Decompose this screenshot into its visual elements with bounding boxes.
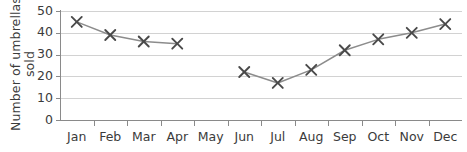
data-point-marker <box>340 45 350 55</box>
series-line-segment <box>244 24 445 83</box>
x-axis-tick-label: Jan <box>66 129 86 144</box>
x-axis-tick-label: Apr <box>166 129 188 144</box>
x-axis-tick-labels: JanFebMarAprMayJunJulAugSepOctNovDec <box>66 129 457 144</box>
y-axis-tick-label: 10 <box>37 90 53 105</box>
x-axis-tick-label: Mar <box>132 129 156 144</box>
axis-lines <box>60 10 462 121</box>
x-axis-tick-label: Feb <box>99 129 121 144</box>
x-axis-tick-label: Jul <box>269 129 285 144</box>
y-axis-tick-label: 20 <box>37 68 53 83</box>
x-axis-tick-label: Oct <box>367 129 389 144</box>
x-axis-tick-label: Jun <box>233 129 254 144</box>
data-point-marker <box>72 17 82 27</box>
x-axis-tick-marks <box>95 121 430 126</box>
data-point-marker <box>306 65 316 75</box>
x-axis-tick-label: Dec <box>433 129 457 144</box>
x-axis-tick-label: Aug <box>299 129 323 144</box>
y-axis-tick-label: 30 <box>37 46 53 61</box>
umbrellas-sold-line-chart: Number of umbrellas sold 01020304050 Jan… <box>0 0 467 152</box>
plot-area: 01020304050 JanFebMarAprMayJunJulAugSepO… <box>0 0 467 152</box>
gridlines <box>56 12 462 121</box>
x-axis-tick-label: Nov <box>400 129 425 144</box>
y-axis-tick-label: 50 <box>37 3 53 18</box>
x-axis-tick-label: Sep <box>333 129 357 144</box>
data-point-marker <box>440 19 450 29</box>
y-axis-tick-labels: 01020304050 <box>37 3 53 127</box>
data-point-marker <box>239 67 249 77</box>
y-axis-tick-label: 0 <box>45 112 53 127</box>
data-series-line <box>77 22 446 83</box>
series-line-segment <box>77 22 178 44</box>
y-axis-tick-label: 40 <box>37 24 53 39</box>
x-axis-tick-label: May <box>198 129 224 144</box>
data-point-marker <box>273 78 283 88</box>
